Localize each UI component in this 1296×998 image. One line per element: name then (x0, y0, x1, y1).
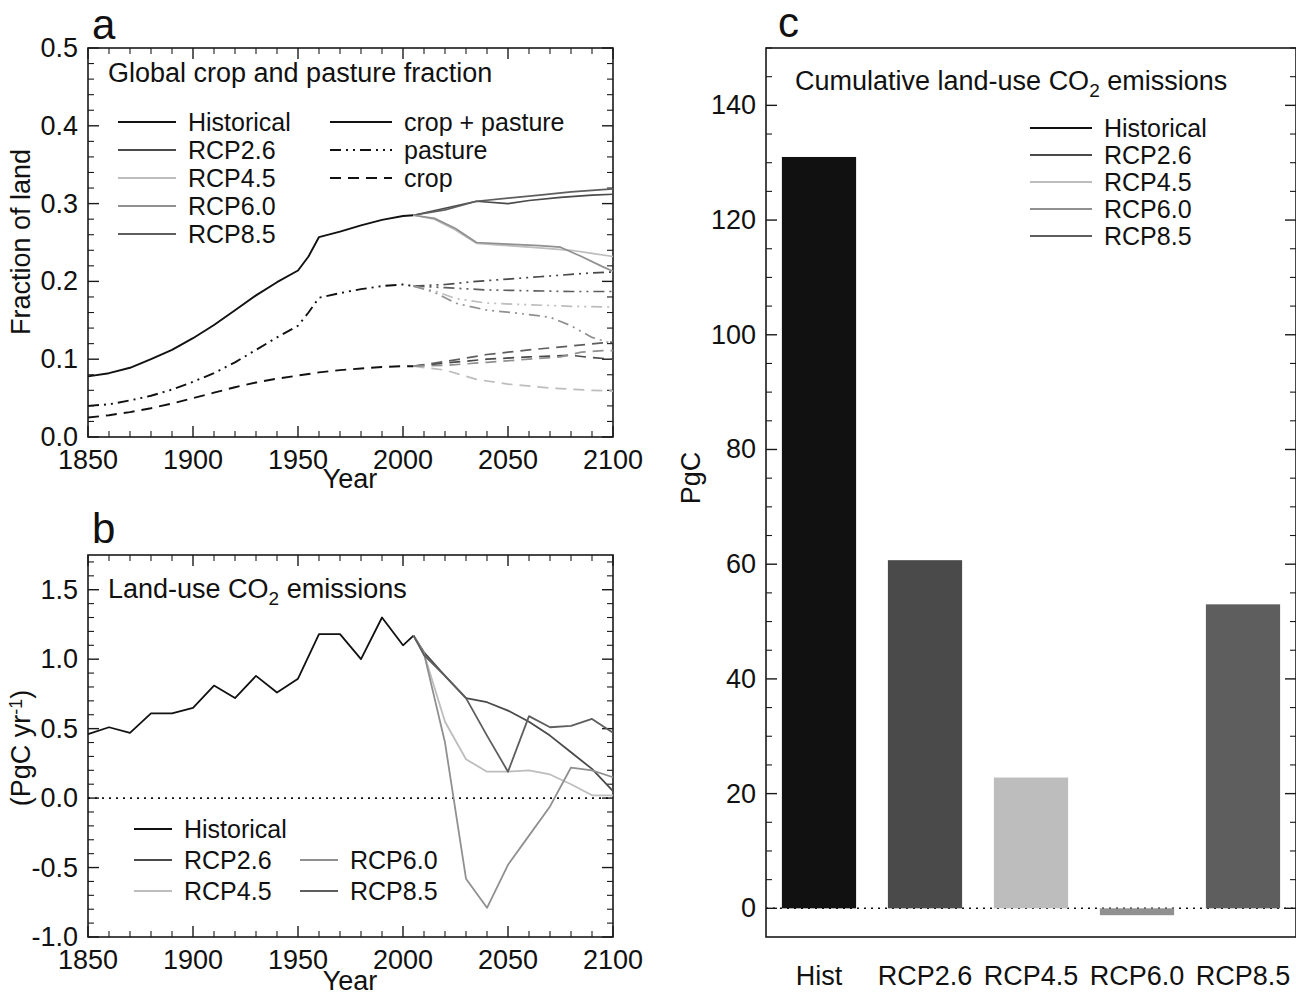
panel-c-legend: HistoricalRCP2.6RCP4.5RCP6.0RCP8.5 (1030, 114, 1207, 250)
panel-c-y-tick-120: 120 (711, 205, 756, 235)
panel-a-y-tick-0.5: 0.5 (40, 33, 78, 63)
panel-b-y-tick-1.5: 1.5 (40, 575, 78, 605)
panel-c-title: Cumulative land-use CO2 emissions (795, 66, 1227, 101)
panel-a-legend-label-rcp60: RCP6.0 (188, 192, 276, 220)
panel-c-bars-group (782, 157, 1280, 915)
panel-a-legend-label-rcp26: RCP2.6 (188, 136, 276, 164)
panel-a-x-tick-1950: 1950 (268, 445, 328, 475)
panel-a-x-axis-label: Year (323, 464, 378, 494)
panel-b-x-tick-1900: 1900 (163, 945, 223, 975)
panel-a-y-axis-label: Fraction of land (6, 149, 36, 335)
panel-a-y-tick-0.1: 0.1 (40, 344, 78, 374)
panel-b-series-rcp45 (414, 636, 614, 796)
panel-c-y-tick-140: 140 (711, 90, 756, 120)
panel-b-legend-label-historical: Historical (184, 815, 287, 843)
panel-b-legend: HistoricalRCP2.6RCP4.5RCP6.0RCP8.5 (134, 815, 438, 905)
panel-c: 020406080100120140 Cumulative land-use C… (676, 48, 1296, 991)
panel-a-x-tick-2050: 2050 (478, 445, 538, 475)
panel-a-series-historical-crop (88, 366, 414, 417)
panel-b-x-tick-2050: 2050 (478, 945, 538, 975)
panel-b-legend-label-rcp85: RCP8.5 (350, 877, 438, 905)
panel-a-y-tick-0.2: 0.2 (40, 266, 78, 296)
panel-c-category-label-rcp45: RCP4.5 (984, 961, 1079, 991)
panel-a-y-tick-0.4: 0.4 (40, 111, 78, 141)
panel-a-legend-style-label-croppasture: crop + pasture (404, 108, 565, 136)
panel-a-title: Global crop and pasture fraction (108, 58, 492, 88)
panel-b-x-axis-label: Year (323, 966, 378, 996)
panel-c-y-tick-0: 0 (741, 893, 756, 923)
panel-b-y-tick--0.5: -0.5 (31, 853, 78, 883)
panel-a-tick-labels: 1850190019502000205021000.00.10.20.30.40… (40, 33, 643, 475)
panel-c-legend-label-historical: Historical (1104, 114, 1207, 142)
panel-b-series-historical (88, 618, 414, 735)
panel-b-series-rcp26 (414, 636, 614, 792)
panel-a-series-rcp45-crop (414, 366, 614, 391)
panel-a-legend-label-rcp45: RCP4.5 (188, 164, 276, 192)
panel-a-y-tick-0.3: 0.3 (40, 189, 78, 219)
panel-b-y-tick--1.0: -1.0 (31, 922, 78, 952)
panel-c-bar-hist (782, 157, 856, 908)
panel-a-legend-style-label-crop: crop (404, 164, 453, 192)
panel-c-y-tick-20: 20 (726, 779, 756, 809)
panel-a: 1850190019502000205021000.00.10.20.30.40… (6, 33, 643, 494)
panel-c-legend-label-rcp26: RCP2.6 (1104, 141, 1192, 169)
panel-a-x-tick-2000: 2000 (373, 445, 433, 475)
panel-c-category-label-rcp60: RCP6.0 (1090, 961, 1185, 991)
panel-c-y-axis-label: PgC (676, 452, 706, 505)
panel-b-y-tick-0.5: 0.5 (40, 714, 78, 744)
panel-a-series-historical-pasture (88, 285, 414, 406)
panel-c-bar-rcp85 (1206, 604, 1280, 908)
panel-a-series-rcp85-pasture (414, 286, 614, 291)
panel-a-x-tick-1900: 1900 (163, 445, 223, 475)
panel-c-legend-label-rcp45: RCP4.5 (1104, 168, 1192, 196)
panel-c-tick-labels: 020406080100120140 (711, 90, 756, 923)
panel-a-legend-label-rcp85: RCP8.5 (188, 220, 276, 248)
figure-root: a b c 1850190019502000205021000.00.10.20… (0, 0, 1296, 998)
panel-b-y-tick-0.0: 0.0 (40, 783, 78, 813)
panel-c-y-tick-60: 60 (726, 549, 756, 579)
panel-a-series-rcp45-croppasture (414, 215, 614, 256)
panel-c-y-tick-80: 80 (726, 434, 756, 464)
panel-b: 185019001950200020502100-1.0-0.50.00.51.… (6, 555, 643, 996)
panel-b-series-rcp85 (414, 636, 614, 772)
panel-c-legend-label-rcp60: RCP6.0 (1104, 195, 1192, 223)
panel-c-y-tick-40: 40 (726, 664, 756, 694)
panel-a-legend: HistoricalRCP2.6RCP4.5RCP6.0RCP8.5crop +… (118, 108, 565, 248)
panel-b-x-tick-1950: 1950 (268, 945, 328, 975)
panel-c-legend-label-rcp85: RCP8.5 (1104, 222, 1192, 250)
panel-a-axes (88, 48, 613, 437)
panel-a-x-tick-2100: 2100 (583, 445, 643, 475)
panel-b-x-tick-2100: 2100 (583, 945, 643, 975)
panel-b-y-axis-label: (PgC yr-1) (6, 690, 36, 807)
panel-c-bar-rcp45 (994, 778, 1068, 909)
panel-b-x-tick-2000: 2000 (373, 945, 433, 975)
panel-a-series-rcp85-crop (414, 342, 614, 366)
panel-c-category-label-hist: Hist (796, 961, 843, 991)
panel-b-title: Land-use CO2 emissions (108, 574, 407, 609)
panel-c-category-labels: HistRCP2.6RCP4.5RCP6.0RCP8.5 (796, 961, 1291, 991)
panel-a-y-tick-0.0: 0.0 (40, 422, 78, 452)
panel-b-legend-label-rcp26: RCP2.6 (184, 846, 272, 874)
panel-a-series-rcp26-pasture (414, 272, 614, 286)
panel-c-y-tick-100: 100 (711, 320, 756, 350)
panel-a-legend-label-historical: Historical (188, 108, 291, 136)
panel-b-y-tick-1.0: 1.0 (40, 644, 78, 674)
panel-c-bar-rcp26 (888, 560, 962, 908)
panel-c-category-label-rcp26: RCP2.6 (878, 961, 973, 991)
panel-a-series-group (88, 189, 613, 418)
panel-b-legend-label-rcp60: RCP6.0 (350, 846, 438, 874)
panel-a-legend-style-label-pasture: pasture (404, 136, 487, 164)
panel-c-category-label-rcp85: RCP8.5 (1196, 961, 1291, 991)
panel-c-bar-rcp60 (1100, 908, 1174, 915)
panel-b-legend-label-rcp45: RCP4.5 (184, 877, 272, 905)
figure-canvas: 1850190019502000205021000.00.10.20.30.40… (0, 0, 1296, 998)
